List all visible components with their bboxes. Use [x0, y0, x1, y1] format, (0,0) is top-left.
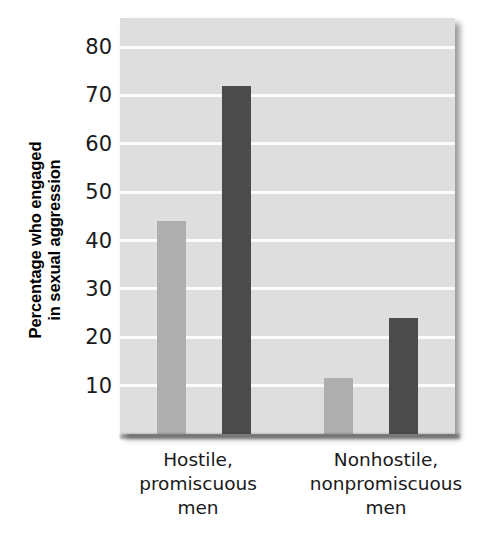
y-tick-label-80: 80 — [66, 37, 112, 58]
bar-1-0 — [324, 378, 353, 434]
y-tick-label-40: 40 — [66, 230, 112, 251]
bar-0-0 — [157, 221, 186, 434]
gridline-70 — [120, 94, 455, 97]
y-axis-tick-labels: 1020304050607080 — [64, 0, 112, 558]
category-label-0-line2: promiscuous — [108, 472, 288, 496]
category-label-1-line2: nonpromiscuous — [288, 472, 484, 496]
category-label-0: Hostile, promiscuous men — [108, 448, 288, 520]
y-tick-label-60: 60 — [66, 133, 112, 154]
gridline-60 — [120, 142, 455, 145]
gridline-80 — [120, 46, 455, 49]
y-axis-title-line2: in sexual aggression — [45, 142, 64, 339]
category-label-1: Nonhostile, nonpromiscuous men — [288, 448, 484, 520]
x-axis-baseline — [120, 434, 460, 439]
category-label-1-line1: Nonhostile, — [288, 448, 484, 472]
bar-chart-figure: Percentage who engaged in sexual aggress… — [0, 0, 499, 558]
y-axis-title-line1: Percentage who engaged — [26, 142, 44, 339]
y-tick-label-20: 20 — [66, 327, 112, 348]
bar-1-1 — [389, 318, 418, 434]
category-label-0-line3: men — [108, 496, 288, 520]
y-tick-label-10: 10 — [66, 375, 112, 396]
y-tick-label-70: 70 — [66, 85, 112, 106]
y-tick-label-30: 30 — [66, 278, 112, 299]
bar-0-1 — [222, 86, 251, 434]
category-label-0-line1: Hostile, — [108, 448, 288, 472]
gridline-50 — [120, 191, 455, 194]
category-label-1-line3: men — [288, 496, 484, 520]
y-tick-label-50: 50 — [66, 182, 112, 203]
plot-area — [120, 18, 455, 434]
